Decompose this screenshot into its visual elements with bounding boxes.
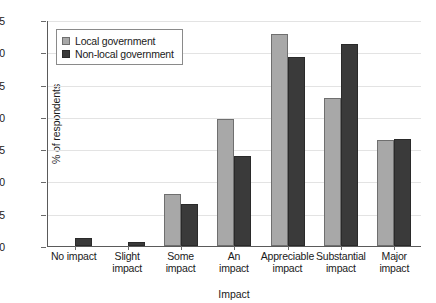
y-tick-mark bbox=[41, 247, 46, 248]
x-tick-label-line: No impact bbox=[47, 251, 100, 263]
bar-nonlocal bbox=[288, 57, 305, 246]
bar-local bbox=[377, 140, 394, 246]
bar-group bbox=[208, 21, 261, 246]
x-tick-label-line: Appreciable bbox=[261, 251, 314, 263]
x-tick-label: Someimpact bbox=[154, 251, 207, 274]
x-tick-label-line: Slight bbox=[100, 251, 153, 263]
y-tick-label: 5 bbox=[0, 209, 5, 221]
legend-item-nonlocal: Non-local government bbox=[62, 47, 174, 60]
y-tick-mark bbox=[41, 118, 46, 119]
x-tick-label-line: Major bbox=[368, 251, 421, 263]
y-tick-label: 30 bbox=[0, 47, 5, 59]
x-tick-label: Animpact bbox=[207, 251, 260, 274]
x-tick-label-line: impact bbox=[314, 263, 367, 275]
legend: Local government Non-local government bbox=[56, 29, 183, 65]
x-tick-label-line: An bbox=[207, 251, 260, 263]
y-tick-label: 35 bbox=[0, 15, 5, 27]
y-tick-label: 25 bbox=[0, 80, 5, 92]
legend-label-local: Local government bbox=[75, 35, 155, 47]
x-axis-title: Impact bbox=[47, 288, 421, 300]
y-tick-mark bbox=[41, 53, 46, 54]
x-tick-label: Slightimpact bbox=[100, 251, 153, 274]
bar-group bbox=[261, 21, 314, 246]
bar-local bbox=[217, 119, 234, 246]
bar-nonlocal bbox=[341, 44, 358, 246]
x-tick-label: Appreciableimpact bbox=[261, 251, 314, 274]
y-tick-mark bbox=[41, 215, 46, 216]
bar-group bbox=[368, 21, 421, 246]
legend-swatch-local-icon bbox=[62, 37, 70, 45]
x-tick-label-line: impact bbox=[207, 263, 260, 275]
x-tick-label-line: Substantial bbox=[314, 251, 367, 263]
y-tick-mark bbox=[41, 150, 46, 151]
bar-nonlocal bbox=[75, 238, 92, 246]
x-tick-label: Majorimpact bbox=[368, 251, 421, 274]
bar-nonlocal bbox=[394, 139, 411, 246]
x-axis-labels: No impactSlightimpactSomeimpactAnimpactA… bbox=[47, 251, 421, 274]
bar-nonlocal bbox=[234, 156, 251, 246]
x-tick-label-line: impact bbox=[100, 263, 153, 275]
y-tick-mark bbox=[41, 86, 46, 87]
x-tick-label-line: impact bbox=[154, 263, 207, 275]
bar-local bbox=[271, 34, 288, 246]
bar-local bbox=[324, 98, 341, 246]
y-tick-label: 15 bbox=[0, 144, 5, 156]
y-tick-label: 0 bbox=[0, 241, 5, 253]
x-tick-label: Substantialimpact bbox=[314, 251, 367, 274]
legend-label-nonlocal: Non-local government bbox=[75, 48, 174, 60]
y-tick-mark bbox=[41, 182, 46, 183]
x-tick-label: No impact bbox=[47, 251, 100, 274]
bar-nonlocal bbox=[181, 204, 198, 246]
x-tick-label-line: impact bbox=[261, 263, 314, 275]
bar-local bbox=[164, 194, 181, 246]
y-tick-label: 10 bbox=[0, 176, 5, 188]
legend-item-local: Local government bbox=[62, 34, 174, 47]
y-tick-label: 20 bbox=[0, 112, 5, 124]
bar-group bbox=[314, 21, 367, 246]
y-tick-mark bbox=[41, 21, 46, 22]
legend-swatch-nonlocal-icon bbox=[62, 50, 70, 58]
x-tick-label-line: impact bbox=[368, 263, 421, 275]
x-tick-label-line: Some bbox=[154, 251, 207, 263]
bar-nonlocal bbox=[128, 242, 145, 246]
bar-chart: % of respondents 05101520253035 No impac… bbox=[0, 0, 436, 303]
